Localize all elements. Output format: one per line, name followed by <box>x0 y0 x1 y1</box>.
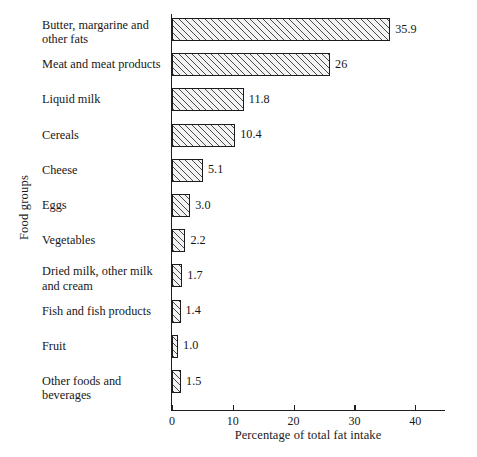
bar <box>172 124 235 147</box>
x-tick-label: 10 <box>213 414 253 429</box>
bar-value-label: 2.2 <box>190 233 205 248</box>
category-label-line: Vegetables <box>42 233 168 247</box>
category-label-line: Dried milk, other milk <box>42 264 168 278</box>
bar <box>172 370 181 393</box>
x-tick <box>294 405 295 411</box>
x-axis-title: Percentage of total fat intake <box>171 428 445 443</box>
category-label-line: Cereals <box>42 128 168 142</box>
category-label: Cereals <box>42 128 168 142</box>
bar <box>172 53 330 76</box>
category-label-line: Liquid milk <box>42 92 168 106</box>
x-tick-label: 20 <box>274 414 314 429</box>
bar-value-label: 10.4 <box>240 127 261 142</box>
x-tick-label: 0 <box>152 414 192 429</box>
bar-value-label: 26 <box>335 57 347 72</box>
x-tick <box>172 405 173 411</box>
category-label: Cheese <box>42 163 168 177</box>
bar <box>172 335 178 358</box>
category-label: Dried milk, other milkand cream <box>42 264 168 293</box>
bar-chart: Food groups Butter, margarine andother f… <box>0 0 477 457</box>
x-tick-label: 30 <box>334 414 374 429</box>
bar-value-label: 1.7 <box>187 268 202 283</box>
category-label-line: and cream <box>42 279 168 293</box>
category-label: Fruit <box>42 339 168 353</box>
category-label-line: Meat and meat products <box>42 57 168 71</box>
category-label-line: Other foods and beverages <box>42 374 168 403</box>
category-label: Butter, margarine andother fats <box>42 18 168 47</box>
bar <box>172 88 244 111</box>
bar-value-label: 1.5 <box>186 374 201 389</box>
bar-value-label: 1.0 <box>183 338 198 353</box>
category-label-line: Fish and fish products <box>42 304 168 318</box>
bar-value-label: 35.9 <box>395 22 416 37</box>
bar <box>172 229 185 252</box>
bar-value-label: 5.1 <box>208 162 223 177</box>
bar-value-label: 11.8 <box>249 92 270 107</box>
bar-value-label: 3.0 <box>195 198 210 213</box>
bar <box>172 18 390 41</box>
x-axis-line <box>171 410 445 411</box>
bar <box>172 159 203 182</box>
category-label: Meat and meat products <box>42 57 168 71</box>
category-label: Liquid milk <box>42 92 168 106</box>
bar-value-label: 1.4 <box>186 303 201 318</box>
category-label-line: Cheese <box>42 163 168 177</box>
x-tick <box>415 405 416 411</box>
plot-area: Butter, margarine andother fats35.9Meat … <box>0 0 477 457</box>
x-tick-label: 40 <box>395 414 435 429</box>
category-label-line: other fats <box>42 32 168 46</box>
category-label: Vegetables <box>42 233 168 247</box>
category-label-line: Fruit <box>42 339 168 353</box>
category-label: Fish and fish products <box>42 304 168 318</box>
x-tick <box>233 405 234 411</box>
category-label: Other foods and beverages <box>42 374 168 403</box>
category-label: Eggs <box>42 198 168 212</box>
bar <box>172 264 182 287</box>
bar <box>172 300 181 323</box>
x-tick <box>354 405 355 411</box>
category-label-line: Eggs <box>42 198 168 212</box>
bar <box>172 194 190 217</box>
category-label-line: Butter, margarine and <box>42 18 168 32</box>
